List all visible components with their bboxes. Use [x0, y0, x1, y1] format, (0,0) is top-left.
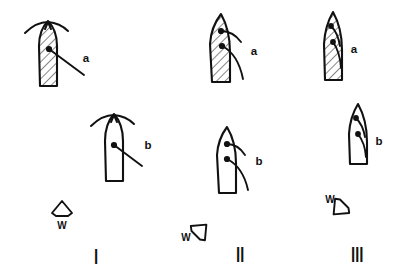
node-point — [46, 46, 52, 52]
figure-drawing: a b W Ⅰ — [0, 0, 397, 275]
node-point-lower — [219, 43, 225, 49]
panel-2-row-a: a — [202, 6, 258, 90]
node-point-lower — [355, 131, 361, 137]
panel-3-numeral: Ⅲ — [350, 243, 364, 267]
panel-2-wind-label: W — [181, 232, 191, 243]
panel-2-row-b-label: b — [255, 155, 262, 167]
panel-2-row-a-label: a — [251, 45, 258, 57]
panel-3-wind-indicator: W — [325, 194, 351, 221]
panel-3: a b W Ⅲ — [315, 4, 383, 267]
panel-3-wind-label: W — [325, 194, 335, 205]
panel-2-row-b: b — [217, 127, 263, 193]
figure-canvas: a b W Ⅰ — [0, 0, 397, 275]
panel-1-row-b-label: b — [144, 139, 151, 151]
node-point-lower — [224, 156, 230, 162]
panel-1-row-a-label: a — [83, 52, 90, 64]
panel-2-numeral: Ⅱ — [235, 243, 245, 267]
wind-arrow-icon — [52, 201, 72, 216]
node-point-lower — [330, 39, 336, 45]
node-point-upper — [328, 23, 334, 29]
node-point-upper — [224, 141, 230, 147]
panel-1-row-a: a — [25, 8, 90, 94]
panel-3-row-b: b — [349, 104, 383, 164]
panel-1-row-b: b — [91, 114, 152, 181]
panel-3-row-b-label: b — [375, 135, 382, 147]
panel-1-numeral: Ⅰ — [93, 245, 99, 269]
panel-1-wind-label: W — [57, 220, 67, 231]
panel-2: a b W Ⅱ — [181, 6, 262, 267]
panel-3-row-a: a — [315, 4, 358, 86]
node-point-upper — [218, 28, 224, 34]
panel-1-wind-indicator: W — [52, 201, 72, 231]
panel-2-wind-indicator: W — [181, 218, 213, 243]
panel-1: a b W Ⅰ — [25, 8, 152, 269]
wind-arrow-icon — [189, 218, 214, 243]
node-point-upper — [353, 115, 359, 121]
panel-3-row-a-label: a — [351, 43, 358, 55]
node-point — [111, 142, 117, 148]
